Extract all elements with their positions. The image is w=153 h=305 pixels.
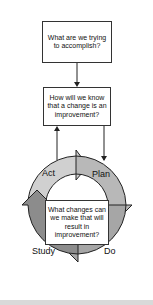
arrow-up-icon [54, 126, 60, 131]
measure-question-text: How will we know that a change is an imp… [45, 94, 109, 120]
change-question-box: What changes can we make that will resul… [45, 200, 109, 245]
study-label: Study [32, 246, 56, 256]
change-question-text: What changes can we make that will resul… [47, 206, 107, 240]
aim-question-text: What are we trying to accomplish? [44, 34, 110, 51]
plan-label: Plan [92, 169, 110, 179]
aim-question-box: What are we trying to accomplish? [42, 21, 112, 63]
do-label: Do [104, 246, 116, 256]
arrow-down-icon [101, 156, 107, 161]
measure-question-box: How will we know that a change is an imp… [43, 87, 111, 126]
footer-bar [0, 300, 153, 305]
act-label: Act [42, 168, 56, 178]
